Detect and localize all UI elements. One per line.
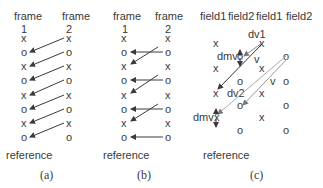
symbol-x: x (66, 60, 72, 72)
symbol-x: x (121, 60, 127, 72)
symbol-o: o (121, 46, 127, 58)
symbol-x: x (165, 117, 171, 129)
symbol-o: o (121, 74, 127, 86)
symbol-x: x (165, 60, 171, 72)
frame2-title: frame (62, 10, 90, 22)
prediction-arrow (30, 52, 64, 66)
frame1-title: frame (14, 10, 42, 22)
c-sym: o (237, 99, 243, 111)
prediction-arrows (131, 47, 163, 137)
symbol-x: x (21, 89, 27, 101)
frame2-column: xoxoxoxo (66, 32, 72, 143)
symbol-x: x (121, 117, 127, 129)
diagonal-prediction-arrow (131, 104, 158, 121)
c-sym: o (237, 75, 243, 87)
header-field1-a: field1 (200, 10, 226, 22)
c-sym: o (237, 124, 243, 136)
dmv-label-bottom: dmv (193, 111, 214, 123)
prediction-arrow (30, 123, 64, 137)
symbol-x: x (21, 32, 27, 44)
dv2-arrow (218, 56, 286, 114)
symbol-o: o (165, 46, 171, 58)
symbol-o: o (165, 131, 171, 143)
v-arrow-2 (243, 58, 288, 105)
prediction-arrow (30, 95, 64, 109)
symbol-o: o (66, 131, 72, 143)
dmv-label-top: dmv (217, 50, 238, 62)
symbol-x: x (21, 117, 27, 129)
reference-label: reference (203, 149, 249, 161)
prediction-arrow (30, 66, 64, 80)
reference-label: reference (6, 149, 52, 161)
symbol-o: o (66, 74, 72, 86)
v-label-1: v (254, 53, 260, 65)
caption-a: (a) (40, 168, 53, 182)
field-prediction-diagram: frame frame 1 2 xoxoxoxo xoxoxoxo refere… (0, 0, 323, 188)
symbol-o: o (66, 103, 72, 115)
symbol-o: o (21, 103, 27, 115)
prediction-arrow (30, 109, 64, 123)
frame2-title: frame (155, 10, 183, 22)
c-sym: x (259, 87, 265, 99)
reference-label: reference (103, 149, 149, 161)
symbol-o: o (165, 74, 171, 86)
symbol-o: o (121, 131, 127, 143)
diagonal-prediction-arrow (131, 47, 158, 64)
symbol-o: o (165, 103, 171, 115)
symbol-o: o (66, 46, 72, 58)
frame1-title: frame (113, 10, 141, 22)
panel-b: frame frame 1 2 xoxoxoxo xoxoxoxo refere… (103, 10, 183, 182)
c-sym: o (283, 75, 289, 87)
frame2-column: xoxoxoxo (165, 32, 171, 143)
header-field1-b: field1 (256, 10, 282, 22)
symbol-x: x (66, 89, 72, 101)
frame1-column: xoxoxoxo (121, 32, 127, 143)
dv1-label: dv1 (248, 28, 266, 40)
symbol-x: x (165, 32, 171, 44)
symbol-o: o (21, 46, 27, 58)
caption-b: (b) (137, 168, 151, 182)
symbol-x: x (165, 89, 171, 101)
c-sym: o (283, 124, 289, 136)
prediction-arrows (30, 38, 64, 137)
c-sym: x (259, 111, 265, 123)
prediction-arrow (30, 38, 64, 52)
c-sym: x (213, 37, 219, 49)
prediction-arrow (30, 80, 64, 95)
v-label-2: v (270, 75, 276, 87)
symbol-x: x (66, 117, 72, 129)
header-field2-b: field2 (286, 10, 312, 22)
panel-c: field1 field2 field1 field2 x x x x o o … (193, 10, 312, 182)
symbol-o: o (21, 131, 27, 143)
header-field2-a: field2 (228, 10, 254, 22)
symbol-o: o (121, 103, 127, 115)
symbol-x: x (66, 32, 72, 44)
frame1-column: xoxoxoxo (21, 32, 27, 143)
c-sym: x (259, 62, 265, 74)
symbol-o: o (21, 74, 27, 86)
diagonal-prediction-arrow (131, 75, 158, 93)
symbol-x: x (121, 89, 127, 101)
symbol-x: x (21, 60, 27, 72)
symbol-x: x (121, 32, 127, 44)
caption-c: (c) (250, 168, 263, 182)
c-sym: o (283, 99, 289, 111)
c-sym: x (213, 62, 219, 74)
panel-a: frame frame 1 2 xoxoxoxo xoxoxoxo refere… (6, 10, 90, 182)
